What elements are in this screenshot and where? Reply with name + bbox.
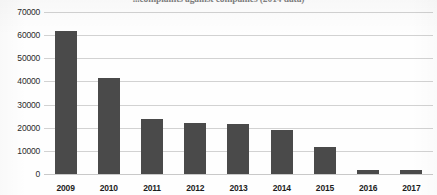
chart-title: ...complaints against companies (2014 da… [0,0,437,6]
bar [314,147,336,174]
bar-slot [217,12,260,174]
x-axis: 200920102011201220132014201520162017 [44,177,433,193]
bars-layer [44,12,433,174]
bar-slot [303,12,346,174]
x-tick-label: 2011 [143,183,161,193]
bar [400,170,422,174]
x-tick-label: 2014 [273,183,291,193]
x-tick-slot: 2016 [347,177,390,193]
x-tick-slot: 2017 [390,177,433,193]
bar [55,31,77,174]
bar-slot [44,12,87,174]
x-tick-slot: 2013 [217,177,260,193]
x-tick-label: 2016 [359,183,377,193]
y-tick-label: 40000 [17,76,40,86]
gridline [44,174,433,175]
x-tick-slot: 2015 [303,177,346,193]
y-tick-label: 20000 [17,123,40,133]
bar-slot [390,12,433,174]
bar [141,119,163,174]
bar-slot [260,12,303,174]
y-tick-label: 0 [35,169,40,179]
x-tick-label: 2015 [316,183,334,193]
bar-slot [87,12,130,174]
bar-chart-figure: ...complaints against companies (2014 da… [0,0,437,195]
y-tick-label: 60000 [17,30,40,40]
y-axis: 010000200003000040000500006000070000 [0,12,40,174]
x-tick-slot: 2014 [260,177,303,193]
x-tick-slot: 2012 [174,177,217,193]
bar [98,78,120,174]
x-tick-slot: 2011 [130,177,173,193]
bar-slot [130,12,173,174]
x-tick-slot: 2009 [44,177,87,193]
bar [271,130,293,174]
x-tick-label: 2017 [402,183,420,193]
bar [357,170,379,174]
bar-slot [174,12,217,174]
x-tick-label: 2009 [57,183,75,193]
bar [227,124,249,174]
x-tick-label: 2012 [186,183,204,193]
bar-slot [347,12,390,174]
bar [184,123,206,174]
x-tick-slot: 2010 [87,177,130,193]
x-tick-label: 2013 [229,183,247,193]
y-tick-label: 10000 [17,146,40,156]
y-tick-label: 70000 [17,7,40,17]
y-tick-label: 30000 [17,100,40,110]
x-tick-label: 2010 [100,183,118,193]
y-tick-label: 50000 [17,53,40,63]
